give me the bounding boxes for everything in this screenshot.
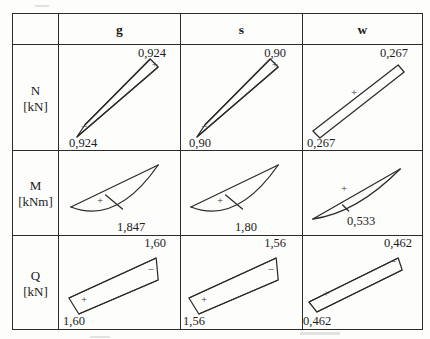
sign-plus: +: [323, 288, 329, 299]
scan-speckle: [300, 332, 340, 335]
row-unit: [kN]: [13, 284, 58, 299]
diagram-cell-m-w: 0,533 +: [303, 151, 423, 236]
value-label-bottom: 1,60: [63, 315, 85, 328]
diagram-cell-n-w: 0,267 0,267 +: [303, 45, 423, 151]
sign-minus: −: [81, 121, 87, 132]
column-header-label: g: [116, 22, 123, 37]
diagram-canvas: 0,924 0,924 + −: [59, 45, 180, 150]
value-label-bottom: 1,847: [117, 221, 145, 234]
sign-plus: +: [341, 183, 347, 194]
column-header-label: w: [357, 22, 367, 37]
corner-cell: [13, 14, 59, 45]
sign-minus: −: [390, 256, 396, 267]
value-label-bottom: 1,80: [235, 221, 257, 234]
diagram-canvas: 0,90 0,90 + −: [181, 45, 302, 150]
scan-speckle: [35, 5, 49, 7]
table-row: N [kN] 0,924: [13, 45, 423, 151]
sign-plus: +: [272, 59, 278, 70]
axial-force-bowtie-g: [59, 45, 180, 150]
diagram-cell-q-g: 1,60 1,60 − +: [59, 236, 181, 330]
diagram-canvas: 1,847 +: [59, 151, 180, 235]
value-label-bottom: 0,267: [307, 137, 335, 150]
diagram-cell-m-g: 1,847 +: [59, 151, 181, 236]
sign-plus: +: [351, 87, 357, 98]
sign-plus: +: [217, 195, 223, 206]
sign-plus: +: [152, 59, 158, 70]
diagram-cell-q-w: 0,462 0,462 − +: [303, 236, 423, 330]
row-symbol: N: [31, 83, 40, 98]
value-label-top: 1,56: [264, 237, 286, 250]
diagram-canvas: 0,267 0,267 +: [303, 45, 422, 150]
diagram-canvas: 1,80 +: [181, 151, 302, 235]
scan-speckle: [90, 336, 110, 338]
value-label-bottom: 0,90: [189, 137, 211, 150]
row-unit: [kN]: [13, 99, 58, 114]
row-symbol: Q: [31, 268, 40, 283]
force-diagram-table: g s w N [kN]: [12, 13, 423, 330]
row-header-m: M [kNm]: [13, 151, 59, 236]
sign-minus: −: [268, 264, 274, 275]
diagram-cell-m-s: 1,80 +: [181, 151, 303, 236]
value-label-top: 0,267: [380, 47, 408, 60]
row-symbol: M: [30, 178, 42, 193]
row-unit: [kNm]: [13, 194, 58, 209]
table-row: M [kNm] 1,847: [13, 151, 423, 236]
diagram-canvas: 0,533 +: [303, 151, 422, 235]
diagram-cell-q-s: 1,56 1,56 − +: [181, 236, 303, 330]
value-label-bottom: 0,462: [303, 315, 331, 328]
diagram-cell-n-g: 0,924 0,924 + −: [59, 45, 181, 151]
column-header-w: w: [303, 14, 423, 45]
diagram-canvas: 1,60 1,60 − +: [59, 236, 180, 329]
value-label-bottom: 0,924: [69, 137, 97, 150]
sign-plus: +: [81, 294, 87, 305]
row-header-q: Q [kN]: [13, 236, 59, 330]
diagram-canvas: 1,56 1,56 − +: [181, 236, 302, 329]
diagram-cell-n-s: 0,90 0,90 + −: [181, 45, 303, 151]
table-header-row: g s w: [13, 14, 423, 45]
value-label-bottom: 0,533: [347, 215, 375, 228]
row-header-label: M [kNm]: [13, 178, 58, 209]
axial-force-bowtie-s: [181, 45, 302, 150]
sign-plus: +: [97, 195, 103, 206]
row-header-n: N [kN]: [13, 45, 59, 151]
row-header-label: N [kN]: [13, 83, 58, 114]
value-label-top: 0,462: [384, 237, 412, 250]
value-label-top: 1,60: [144, 237, 166, 250]
table-row: Q [kN] 1,60: [13, 236, 423, 330]
column-header-g: g: [59, 14, 181, 45]
figure-sheet: g s w N [kN]: [0, 0, 430, 339]
diagram-canvas: 0,462 0,462 − +: [303, 236, 422, 329]
column-header-label: s: [239, 22, 245, 37]
sign-minus: −: [148, 264, 154, 275]
column-header-s: s: [181, 14, 303, 45]
row-header-label: Q [kN]: [13, 268, 58, 299]
sign-minus: −: [201, 121, 207, 132]
value-label-bottom: 1,56: [183, 315, 205, 328]
axial-force-strip-w: [303, 45, 422, 150]
sign-plus: +: [201, 294, 207, 305]
